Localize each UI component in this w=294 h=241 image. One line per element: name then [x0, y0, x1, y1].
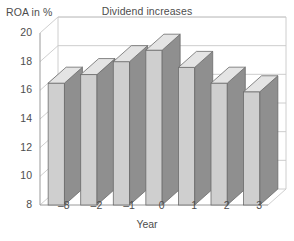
- y-tick-label: 12: [6, 142, 32, 153]
- x-tick-label: –8: [47, 200, 81, 211]
- bar-series: [48, 34, 278, 205]
- x-tick-label: 3: [242, 200, 276, 211]
- bar-column: [81, 59, 115, 205]
- y-tick-label: 18: [6, 56, 32, 67]
- bar-column: [113, 46, 147, 205]
- bar-column: [146, 34, 180, 205]
- y-tick-label: 8: [6, 199, 32, 210]
- x-tick-label: –1: [112, 200, 146, 211]
- y-tick-label: 16: [6, 84, 32, 95]
- y-tick-label: 20: [6, 27, 32, 38]
- bar-column: [48, 67, 82, 205]
- y-tick-label: 10: [6, 170, 32, 181]
- bar-column: [211, 67, 245, 205]
- x-tick-label: 1: [177, 200, 211, 211]
- x-tick-label: 0: [145, 200, 179, 211]
- bar-column: [178, 51, 212, 205]
- x-axis-label: Year: [0, 218, 294, 230]
- x-tick-label: 2: [210, 200, 244, 211]
- chart-container: ROA in % Dividend increases 201816141210…: [0, 0, 294, 241]
- bar-column: [244, 76, 278, 205]
- x-tick-label: –2: [79, 200, 113, 211]
- y-tick-label: 14: [6, 113, 32, 124]
